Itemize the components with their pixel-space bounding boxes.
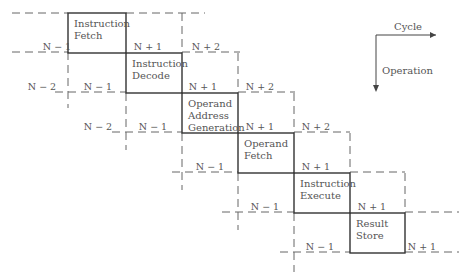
stage-label: Execute [300, 190, 341, 201]
cycle-label: N − 1 [84, 81, 112, 92]
stage-label: Fetch [74, 30, 103, 41]
pipeline-stage: InstructionExecute [294, 173, 357, 213]
stage-label: Decode [132, 70, 170, 81]
stage-label: Address [187, 110, 229, 121]
cycle-label: N − 1 [251, 201, 279, 212]
cycle-label: N − 2 [28, 81, 56, 92]
cycle-arrowhead-icon [430, 32, 436, 38]
cycle-label: N + 2 [302, 121, 330, 132]
stage-label: Generation [188, 122, 245, 133]
cycle-label: N + 1 [189, 81, 217, 92]
cycle-label: N − 1 [139, 121, 167, 132]
stage-label: Store [356, 230, 384, 241]
pipeline-stages: InstructionFetchInstructionDecodeOperand… [68, 13, 405, 253]
axis-legend: Cycle Operation [373, 21, 436, 92]
cycle-label: N + 1 [302, 161, 330, 172]
stage-label: Result [356, 218, 388, 229]
cycle-label: N + 1 [408, 241, 436, 252]
cycle-boundary-lines [12, 13, 459, 272]
pipeline-stage: ResultStore [350, 213, 405, 253]
pipeline-diagram: InstructionFetchInstructionDecodeOperand… [0, 0, 459, 280]
stage-label: Instruction [300, 178, 357, 189]
cycle-label: N + 1 [246, 121, 274, 132]
cycle-label: N − 2 [84, 121, 112, 132]
cycle-label: N + 1 [358, 201, 386, 212]
stage-label: Instruction [74, 18, 131, 29]
pipeline-stage: OperandAddressGeneration [182, 93, 245, 133]
cycle-label: Cycle [394, 21, 422, 32]
cycle-label: N + 1 [134, 41, 162, 52]
cycle-label: N − 1 [306, 241, 334, 252]
cycle-label: N − 1 [43, 41, 71, 52]
stage-label: Operand [244, 138, 289, 149]
stage-label: Operand [188, 98, 233, 109]
operation-label: Operation [382, 65, 433, 76]
stage-label: Instruction [132, 58, 189, 69]
cycle-label: N − 1 [196, 161, 224, 172]
cycle-label: N + 2 [246, 81, 274, 92]
pipeline-stage: OperandFetch [238, 133, 294, 173]
stage-label: Fetch [244, 150, 273, 161]
pipeline-stage: InstructionDecode [126, 53, 189, 93]
operation-arrowhead-icon [373, 85, 379, 92]
cycle-label: N + 2 [192, 41, 220, 52]
pipeline-stage: InstructionFetch [68, 13, 131, 53]
